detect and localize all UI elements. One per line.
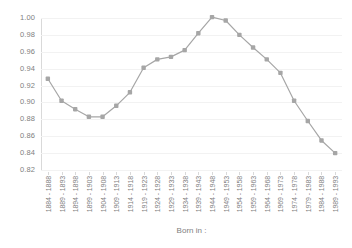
data-point [333, 151, 337, 155]
x-tick-mark [239, 172, 240, 175]
data-point [265, 57, 269, 61]
data-point [306, 119, 310, 123]
x-tick: 1944 - 1948 [206, 172, 218, 222]
series-markers [46, 15, 338, 155]
x-tick-mark [171, 172, 172, 175]
y-tick-label: 0.84 [20, 149, 35, 157]
x-tick-mark [157, 172, 158, 175]
x-tick-mark [198, 172, 199, 175]
y-tick-label: 1.00 [20, 14, 35, 22]
y-tick-label: 0.88 [20, 115, 35, 123]
x-tick: 1979 - 1983 [302, 172, 314, 222]
line-chart: 1.000.980.960.940.920.900.880.860.840.82… [0, 0, 352, 248]
x-tick: 1914 - 1918 [124, 172, 136, 222]
data-point [224, 18, 228, 22]
x-tick-label: 1889 - 1893 [58, 176, 65, 212]
x-tick-label: 1989 - 1993 [332, 176, 339, 212]
x-tick-mark [75, 172, 76, 175]
data-point [292, 99, 296, 103]
x-tick-mark [212, 172, 213, 175]
x-tick-label: 1934 - 1938 [181, 176, 188, 212]
x-tick-label: 1939 - 1943 [195, 176, 202, 212]
x-tick-mark [103, 172, 104, 175]
x-tick: 1894 - 1898 [69, 172, 81, 222]
data-point [210, 15, 214, 19]
x-tick-mark [185, 172, 186, 175]
x-tick: 1899 - 1903 [83, 172, 95, 222]
x-tick-mark [308, 172, 309, 175]
x-tick-label: 1909 - 1913 [113, 176, 120, 212]
y-tick-label: 0.92 [20, 82, 35, 90]
x-tick-label: 1884 - 1888 [44, 176, 51, 212]
series-line [48, 17, 335, 153]
data-point [155, 57, 159, 61]
data-point [128, 90, 132, 94]
data-point [182, 48, 186, 52]
x-tick-label: 1899 - 1903 [85, 176, 92, 212]
x-tick-label: 1979 - 1983 [304, 176, 311, 212]
x-tick-mark [48, 172, 49, 175]
x-tick-label: 1919 - 1923 [140, 176, 147, 212]
x-tick-mark [62, 172, 63, 175]
data-point [73, 107, 77, 111]
x-tick-label: 1969 - 1973 [277, 176, 284, 212]
y-tick-label: 0.86 [20, 132, 35, 140]
x-tick-mark [144, 172, 145, 175]
data-point [59, 99, 63, 103]
x-tick: 1949 - 1953 [220, 172, 232, 222]
y-tick-label: 0.82 [20, 166, 35, 174]
data-point [46, 77, 50, 81]
data-point [278, 71, 282, 75]
data-point [319, 138, 323, 142]
x-axis-title: Born in : [41, 226, 342, 235]
x-tick: 1919 - 1923 [138, 172, 150, 222]
x-tick-mark [130, 172, 131, 175]
x-tick-label: 1904 - 1908 [99, 176, 106, 212]
x-tick: 1989 - 1993 [329, 172, 341, 222]
x-tick-label: 1929 - 1933 [167, 176, 174, 212]
y-tick-label: 0.94 [20, 65, 35, 73]
x-tick: 1929 - 1933 [165, 172, 177, 222]
gridline [41, 170, 342, 171]
x-tick-label: 1964 - 1968 [263, 176, 270, 212]
x-tick: 1934 - 1938 [179, 172, 191, 222]
x-tick-label: 1914 - 1918 [126, 176, 133, 212]
x-tick-mark [116, 172, 117, 175]
data-point [169, 55, 173, 59]
y-tick-label: 0.96 [20, 48, 35, 56]
x-tick: 1969 - 1973 [274, 172, 286, 222]
x-tick-mark [294, 172, 295, 175]
x-tick: 1964 - 1968 [261, 172, 273, 222]
y-tick-label: 0.98 [20, 31, 35, 39]
x-tick: 1884 - 1888 [42, 172, 54, 222]
x-tick-mark [253, 172, 254, 175]
x-axis: 1884 - 18881889 - 18931894 - 18981899 - … [41, 172, 342, 222]
x-tick: 1984 - 1988 [315, 172, 327, 222]
x-tick: 1974 - 1978 [288, 172, 300, 222]
x-tick: 1924 - 1928 [151, 172, 163, 222]
plot-area [41, 18, 342, 170]
x-tick-label: 1974 - 1978 [291, 176, 298, 212]
x-tick-label: 1894 - 1898 [72, 176, 79, 212]
data-point [87, 115, 91, 119]
x-tick: 1954 - 1958 [233, 172, 245, 222]
x-tick-mark [267, 172, 268, 175]
x-tick: 1889 - 1893 [56, 172, 68, 222]
x-tick-label: 1959 - 1963 [250, 176, 257, 212]
x-tick-label: 1924 - 1928 [154, 176, 161, 212]
data-point [114, 104, 118, 108]
data-point [237, 33, 241, 37]
data-point [100, 115, 104, 119]
data-point [196, 31, 200, 35]
data-point [251, 45, 255, 49]
x-tick: 1904 - 1908 [97, 172, 109, 222]
x-tick: 1909 - 1913 [110, 172, 122, 222]
x-tick-label: 1949 - 1953 [222, 176, 229, 212]
x-tick-mark [226, 172, 227, 175]
x-tick: 1959 - 1963 [247, 172, 259, 222]
y-axis: 1.000.980.960.940.920.900.880.860.840.82 [0, 18, 38, 170]
x-tick-mark [280, 172, 281, 175]
data-point [141, 66, 145, 70]
x-tick-mark [89, 172, 90, 175]
x-tick-label: 1954 - 1958 [236, 176, 243, 212]
